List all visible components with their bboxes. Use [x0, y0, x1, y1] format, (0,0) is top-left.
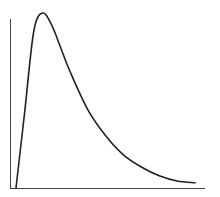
distribution-chart: [0, 0, 220, 197]
distribution-curve: [16, 13, 195, 188]
chart-canvas: [0, 0, 220, 197]
